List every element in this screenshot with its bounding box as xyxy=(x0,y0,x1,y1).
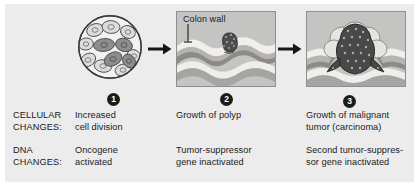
dna-change-stage-1: Oncogene activated xyxy=(75,145,118,168)
row-label-cellular-changes: CELLULAR CHANGES: xyxy=(13,110,62,133)
colon-wall-label: Colon wall xyxy=(183,14,226,24)
row-label-dna-changes: DNA CHANGES: xyxy=(13,145,62,168)
malignant-tumor-panel xyxy=(306,11,406,87)
arrow-right-icon xyxy=(148,42,172,56)
colon-wall-polyp-panel: Colon wall xyxy=(176,11,276,87)
stage-badge-2: 2 xyxy=(220,93,233,106)
dna-change-stage-3: Second tumor-suppres- sor gene inactivat… xyxy=(306,145,403,168)
cell-cluster-icon xyxy=(77,14,143,80)
cellular-change-stage-2: Growth of polyp xyxy=(176,110,241,122)
illustration-row: Colon wall xyxy=(0,0,419,92)
arrow-right-icon xyxy=(278,42,302,56)
dna-change-stage-2: Tumor-suppressor gene inactivated xyxy=(176,145,252,168)
cancer-progression-figure: Colon wall xyxy=(0,0,419,189)
malignant-tumor-illustration xyxy=(307,12,405,86)
stage-badge-3: 3 xyxy=(343,95,356,108)
stage-badge-1: 1 xyxy=(107,93,120,106)
cellular-change-stage-3: Growth of malignant tumor (carcinoma) xyxy=(306,110,389,133)
cellular-change-stage-1: Increased cell division xyxy=(75,110,123,133)
